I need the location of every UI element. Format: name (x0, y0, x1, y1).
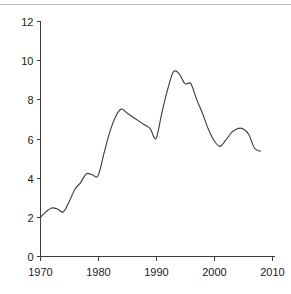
x-tick-label-1990: 1990 (144, 266, 168, 278)
x-tick-label-2010: 2010 (260, 266, 284, 278)
line-chart-plot: 024681012 19701980199020002010 (0, 0, 291, 294)
y-tick-label-8: 8 (27, 94, 33, 106)
y-axis-tick-labels: 024681012 (21, 16, 33, 263)
x-tick-label-2000: 2000 (202, 266, 226, 278)
y-tick-label-6: 6 (27, 134, 33, 146)
y-axis: 024681012 (21, 16, 40, 263)
y-tick-label-0: 0 (27, 251, 33, 263)
data-line-series-1 (40, 71, 260, 218)
data-series-group (40, 71, 260, 218)
x-tick-label-1970: 1970 (28, 266, 52, 278)
y-axis-ticks (37, 22, 41, 257)
x-axis-tick-labels: 19701980199020002010 (28, 266, 284, 278)
y-tick-label-10: 10 (21, 55, 33, 67)
x-axis: 19701980199020002010 (28, 256, 284, 278)
y-tick-label-12: 12 (21, 16, 33, 28)
x-tick-label-1980: 1980 (86, 266, 110, 278)
chart-figure: 024681012 19701980199020002010 (0, 0, 291, 294)
y-tick-label-4: 4 (27, 173, 33, 185)
y-tick-label-2: 2 (27, 212, 33, 224)
